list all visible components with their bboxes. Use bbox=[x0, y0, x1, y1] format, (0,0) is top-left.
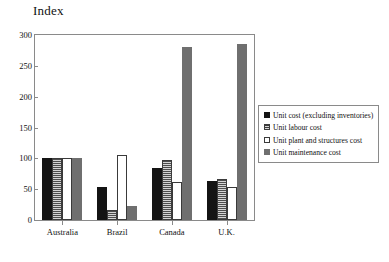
y-axis-tick-label: 0 bbox=[0, 216, 32, 225]
bar bbox=[227, 187, 237, 220]
bar bbox=[217, 179, 227, 220]
y-axis-tick-label: 50 bbox=[0, 185, 32, 194]
y-axis-tick-label: 250 bbox=[0, 62, 32, 71]
bar bbox=[117, 155, 127, 220]
bar bbox=[52, 158, 62, 220]
bar-group bbox=[35, 35, 90, 220]
bar bbox=[107, 210, 117, 220]
x-axis-tick-label: U.K. bbox=[218, 228, 235, 237]
bar bbox=[127, 206, 137, 220]
bar bbox=[72, 158, 82, 220]
legend-item: Unit maintenance cost bbox=[264, 148, 374, 157]
bar bbox=[182, 47, 192, 220]
bar-group bbox=[90, 35, 145, 220]
legend-swatch-icon bbox=[264, 112, 270, 118]
legend-swatch-icon bbox=[264, 149, 270, 155]
x-axis-tick-mark bbox=[117, 221, 118, 225]
legend-item: Unit plant and structures cost bbox=[264, 136, 374, 145]
bar bbox=[237, 44, 247, 220]
x-axis-tick-label: Canada bbox=[159, 228, 185, 237]
legend-swatch-icon bbox=[264, 137, 270, 143]
bar bbox=[207, 181, 217, 220]
legend-item-label: Unit cost (excluding inventories) bbox=[273, 111, 374, 120]
plot-area bbox=[35, 35, 254, 220]
bar bbox=[172, 182, 182, 220]
bar bbox=[62, 158, 72, 220]
y-axis-title: Index bbox=[33, 3, 64, 19]
x-axis-tick-mark bbox=[172, 221, 173, 225]
bar bbox=[42, 158, 52, 220]
y-axis-tick-label: 300 bbox=[0, 31, 32, 40]
legend-item-label: Unit labour cost bbox=[273, 123, 374, 132]
legend: Unit cost (excluding inventories)Unit la… bbox=[258, 105, 379, 163]
y-axis-tick-label: 200 bbox=[0, 92, 32, 101]
bar-group bbox=[145, 35, 200, 220]
x-axis-tick-mark bbox=[227, 221, 228, 225]
legend-item-label: Unit plant and structures cost bbox=[273, 136, 374, 145]
legend-item: Unit cost (excluding inventories) bbox=[264, 111, 374, 120]
bar bbox=[162, 160, 172, 220]
y-axis-tick-label: 100 bbox=[0, 154, 32, 163]
x-axis-tick-label: Brazil bbox=[107, 228, 128, 237]
bar-chart-figure: Index 050100150200250300 AustraliaBrazil… bbox=[0, 0, 389, 262]
legend-item: Unit labour cost bbox=[264, 123, 374, 132]
bar-group bbox=[199, 35, 254, 220]
x-axis-tick-label: Australia bbox=[47, 228, 78, 237]
y-axis-tick-label: 150 bbox=[0, 123, 32, 132]
legend-item-label: Unit maintenance cost bbox=[273, 148, 374, 157]
legend-swatch-icon bbox=[264, 124, 270, 130]
bar bbox=[152, 168, 162, 220]
bar bbox=[97, 187, 107, 220]
x-axis-tick-mark bbox=[62, 221, 63, 225]
